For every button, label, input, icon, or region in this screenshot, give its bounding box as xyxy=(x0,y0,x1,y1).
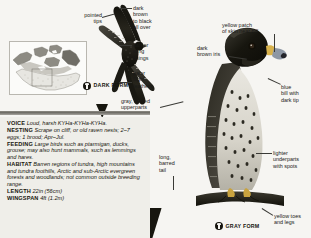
fact-row: VOICE Loud, harsh KYHa-KYHa-KYHa. xyxy=(7,120,144,127)
gray-form-label: GRAY FORM xyxy=(226,223,260,229)
fact-key: VOICE xyxy=(7,120,25,126)
fact-value: 4ft (1.2m) xyxy=(40,195,64,201)
species-facts-panel: VOICE Loud, harsh KYHa-KYHa-KYHa. NESTIN… xyxy=(0,117,150,238)
dark-form-tag: DARK FORM xyxy=(83,82,128,90)
callout-dark-brown-to-black: dark brown to black all over xyxy=(133,5,167,31)
leader-line-underparts xyxy=(256,153,272,154)
fact-row: WINGSPAN 4ft (1.2m) xyxy=(7,195,144,202)
fact-key: HABITAT xyxy=(7,161,32,167)
callout-blue-bill: blue bill with dark tip xyxy=(281,84,309,103)
fact-value: Loud, harsh KYHa-KYHa-KYHa. xyxy=(27,120,107,126)
fact-key: LENGTH xyxy=(7,188,31,194)
leader-line-wing-linings xyxy=(119,45,132,46)
fact-row: NESTING Scrape on cliff, or old raven ne… xyxy=(7,127,144,140)
callout-yellow-toes-legs: yellow toes and legs xyxy=(274,213,310,226)
callout-pointed-tips: pointed tips xyxy=(74,12,102,25)
leader-line-tail xyxy=(173,176,174,190)
callout-long-barred-tail: long, barred tail xyxy=(159,154,183,173)
range-map-svg xyxy=(10,42,86,94)
fact-row: HABITAT Barren regions of tundra, high m… xyxy=(7,161,144,187)
falcon-silhouette-icon xyxy=(215,222,223,230)
fact-key: WINGSPAN xyxy=(7,195,39,201)
fact-row: FEEDING Large birds such as ptarmigan, d… xyxy=(7,141,144,161)
fact-key: FEEDING xyxy=(7,141,33,147)
field-guide-page: pointed tips dark brown to black all ove… xyxy=(0,0,311,238)
leader-line-yellow-patch xyxy=(274,34,275,52)
leader-line-dark-brown xyxy=(119,8,132,9)
callout-darker-wing-linings: darker wing linings xyxy=(133,42,163,61)
callout-gray-barred-upperparts: gray, barred upperparts xyxy=(121,98,161,111)
callout-dark-brown-iris: dark brown iris xyxy=(197,45,229,58)
fact-row: LENGTH 22in (56cm) xyxy=(7,188,144,195)
callout-lighter-underparts: lighter underparts with spots xyxy=(273,150,309,169)
callout-yellow-patch-skin: yellow patch of skin near bill xyxy=(222,22,274,35)
dark-form-label: DARK FORM xyxy=(94,82,129,88)
range-map-canvas xyxy=(10,42,86,94)
callout-paler-flight-feathers: paler flight feathers xyxy=(133,70,163,89)
gray-form-tag: GRAY FORM xyxy=(215,222,260,230)
range-map xyxy=(9,41,87,95)
section-divider-bar xyxy=(0,111,150,115)
fact-key: NESTING xyxy=(7,127,33,133)
falcon-silhouette-icon xyxy=(83,82,91,90)
fact-value: 22in (56cm) xyxy=(32,188,62,194)
